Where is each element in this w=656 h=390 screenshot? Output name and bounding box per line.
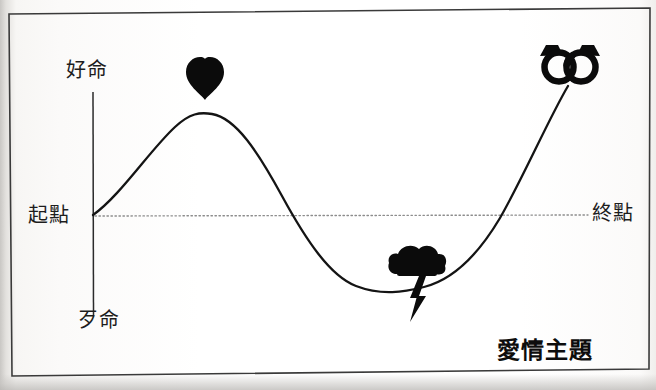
lightning-bolt-shape [410,276,426,322]
storm-cloud-lightning-icon [388,246,446,322]
axis-label-end: 終點 [592,203,634,223]
wedding-rings-icon [540,45,600,82]
cloud-shape [388,246,446,276]
baseline-dotted-line [95,215,588,216]
heart-icon [186,57,224,100]
axis-label-start: 起點 [28,205,70,225]
y-axis-line [93,92,94,316]
diagram-title: 愛情主題 [497,331,593,365]
axis-label-bad-fate: 歹命 [78,310,120,330]
axis-label-good-fate: 好命 [66,60,108,80]
love-curve-path [93,86,568,292]
